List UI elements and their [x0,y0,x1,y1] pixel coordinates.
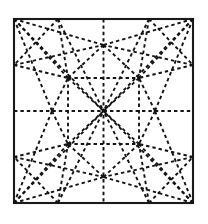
crease-pattern-figure [0,0,208,224]
crease-pattern-canvas [0,0,208,224]
